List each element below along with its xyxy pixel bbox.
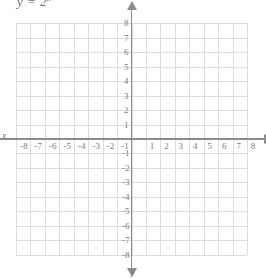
tick-label-layer: -8-7-6-5-4-3-2-11234567887654321-1-2-3-4… — [0, 0, 266, 278]
x-axis-label: x — [2, 130, 6, 141]
y-tick-label: 7 — [115, 34, 129, 43]
y-tick-label: -5 — [116, 207, 130, 216]
y-tick-label: 8 — [115, 19, 129, 28]
y-tick-label: 3 — [115, 92, 129, 101]
x-tick-label: -5 — [60, 142, 74, 151]
x-tick-label: 6 — [217, 142, 231, 151]
x-tick-label: -3 — [89, 142, 103, 151]
x-tick-label: 4 — [188, 142, 202, 151]
x-tick-label: 8 — [246, 142, 260, 151]
y-tick-label: 1 — [115, 121, 129, 130]
graph-canvas: y = 2x -8-7-6-5-4-3-2-11234567887654321-… — [0, 0, 266, 278]
y-axis-label: y — [131, 268, 135, 277]
y-tick-label: -1 — [116, 149, 130, 158]
x-tick-label: -7 — [31, 142, 45, 151]
y-tick-label: 5 — [115, 63, 129, 72]
y-tick-label: 6 — [115, 48, 129, 57]
x-tick-label: 5 — [203, 142, 217, 151]
y-tick-label: -8 — [116, 251, 130, 260]
y-tick-label: -4 — [116, 193, 130, 202]
x-tick-label: -4 — [75, 142, 89, 151]
y-tick-label: -2 — [116, 164, 130, 173]
y-tick-label: -3 — [116, 178, 130, 187]
x-tick-label: -6 — [46, 142, 60, 151]
y-tick-label: -7 — [116, 236, 130, 245]
y-tick-label: -6 — [116, 222, 130, 231]
y-tick-label: 4 — [115, 77, 129, 86]
x-tick-label: 3 — [174, 142, 188, 151]
x-tick-label: 7 — [232, 142, 246, 151]
x-tick-label: -8 — [17, 142, 31, 151]
x-tick-label: 2 — [159, 142, 173, 151]
x-tick-label: 1 — [145, 142, 159, 151]
y-tick-label: 2 — [115, 106, 129, 115]
